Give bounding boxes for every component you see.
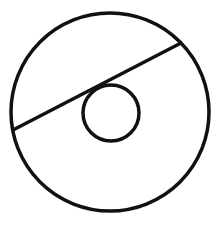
background [0,0,222,228]
diagram-canvas [0,0,222,228]
